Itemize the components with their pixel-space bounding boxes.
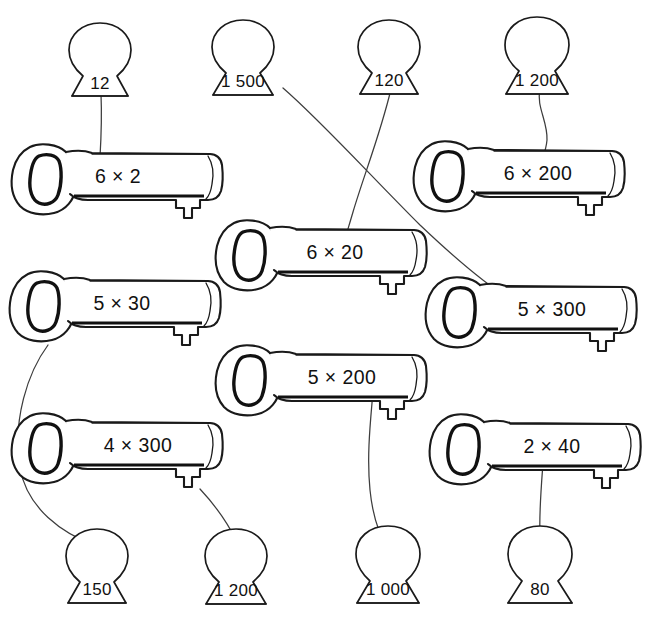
key-6x2[interactable]: 6 × 2 bbox=[12, 144, 223, 218]
key-label: 6 × 20 bbox=[306, 241, 363, 263]
key-label: 5 × 30 bbox=[93, 292, 150, 314]
key-label: 4 × 300 bbox=[104, 434, 172, 456]
key-6x20[interactable]: 6 × 20 bbox=[216, 220, 427, 294]
key-label: 6 × 2 bbox=[95, 165, 141, 187]
key-5x200[interactable]: 5 × 200 bbox=[216, 345, 427, 419]
key-4x300[interactable]: 4 × 300 bbox=[12, 413, 223, 487]
worksheet-canvas: 12 1 500 120 1 200 150 1 200 bbox=[0, 0, 650, 619]
keys-layer: 6 × 2 6 × 200 6 × 20 5 × 30 5 × 300 5 × … bbox=[0, 0, 650, 619]
key-label: 5 × 300 bbox=[518, 298, 586, 320]
key-2x40[interactable]: 2 × 40 bbox=[430, 414, 641, 488]
key-label: 5 × 200 bbox=[308, 366, 376, 388]
key-5x300[interactable]: 5 × 300 bbox=[426, 277, 637, 351]
key-label: 2 × 40 bbox=[523, 435, 580, 457]
key-5x30[interactable]: 5 × 30 bbox=[10, 271, 221, 345]
key-label: 6 × 200 bbox=[504, 162, 572, 184]
key-6x200[interactable]: 6 × 200 bbox=[414, 141, 625, 215]
